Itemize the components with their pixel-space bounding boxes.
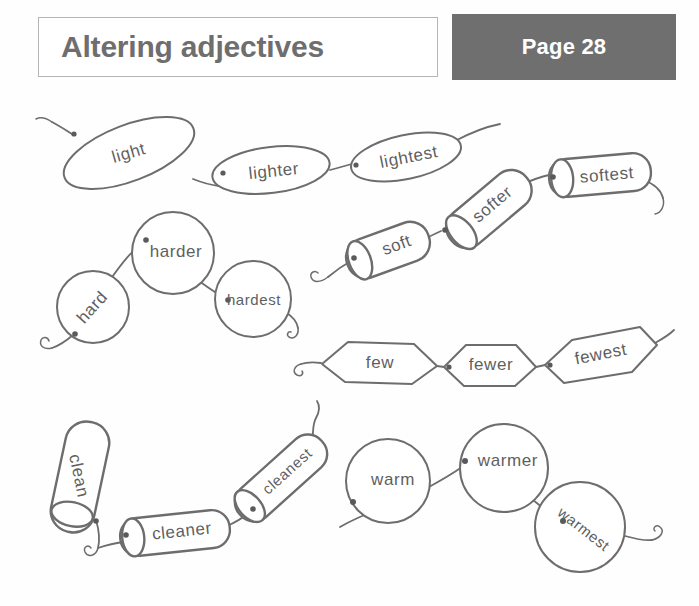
bead-warm-knot xyxy=(350,499,356,505)
bead-fewer-knot xyxy=(446,364,451,369)
chain-clean: clean cleaner cleanest xyxy=(47,401,335,558)
thread-clean-join-cleaner xyxy=(98,542,123,548)
bead-fewest-knot xyxy=(547,362,552,367)
thread-few-tail-curl xyxy=(294,364,302,376)
thread-clean-to-cleaner xyxy=(96,520,99,548)
bead-warmer-knot xyxy=(462,458,468,464)
thread-fewer-to-fewest xyxy=(536,365,545,367)
bead-softest-knot xyxy=(550,174,556,180)
bead-harder-label: harder xyxy=(150,242,203,261)
thread-tail-start-curl xyxy=(36,118,52,122)
thread-few-tail-start xyxy=(301,362,321,364)
bead-harder-knot xyxy=(143,237,149,243)
bead-hard-knot xyxy=(72,331,78,337)
bead-hardest-label: hardest xyxy=(227,291,281,308)
thread-soft-tail-end-curl xyxy=(655,198,664,214)
bead-cleaner-knot xyxy=(123,532,129,538)
bead-clean-knot xyxy=(93,518,99,524)
bead-warmer-label: warmer xyxy=(477,451,538,470)
bead-warm-label: warm xyxy=(370,470,415,489)
chain-warm: warm warmer warmest xyxy=(340,424,662,572)
thread-warm-tail-end xyxy=(625,536,652,540)
thread-hard-tail-curl xyxy=(41,337,52,348)
thread-hard-tail-end-curl xyxy=(288,328,299,338)
thread-few-tail-end xyxy=(655,330,674,343)
bead-fewer-label: fewer xyxy=(469,355,514,374)
bead-soft-knot xyxy=(351,255,357,261)
chain-light: light lighter lightest xyxy=(36,102,500,204)
worksheet-page: Altering adjectives Page 28 xyxy=(0,0,699,606)
thread-warm-tail-end-curl xyxy=(652,526,662,540)
bead-lighter-knot xyxy=(220,170,225,175)
chain-few: few fewer fewest xyxy=(294,327,674,386)
thread-few-to-fewer xyxy=(437,366,444,367)
bead-lightest-knot xyxy=(353,162,358,167)
bead-softer-knot xyxy=(442,227,448,233)
bead-chains-illustration: light lighter lightest xyxy=(0,0,699,606)
bead-chains-svg: light lighter lightest xyxy=(0,0,699,606)
thread-lighter-to-lightest xyxy=(330,164,352,170)
bead-cleanest-knot xyxy=(250,506,256,512)
bead-light-knot xyxy=(71,131,76,136)
thread-clean-tail-curl xyxy=(85,546,98,555)
thread-hard-tail-start xyxy=(52,335,73,348)
thread-warm-to-warmer xyxy=(427,467,462,488)
bead-few-label: few xyxy=(366,353,394,372)
thread-tail-start xyxy=(52,122,72,134)
thread-soft-tail-curl xyxy=(311,272,328,282)
chain-hard: hard harder hardest xyxy=(41,212,299,349)
thread-tail-end xyxy=(455,124,500,141)
